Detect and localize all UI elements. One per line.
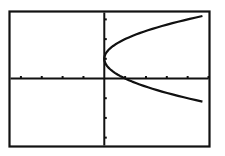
graph-screen (0, 0, 225, 156)
